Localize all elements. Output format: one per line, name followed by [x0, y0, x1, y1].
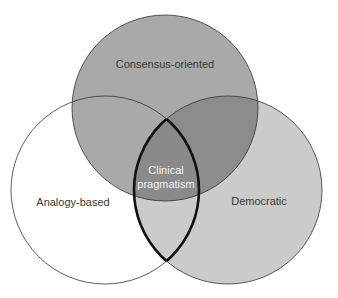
- venn-diagram: Consensus-oriented Analogy-based Democra…: [0, 0, 338, 298]
- analogy-label: Analogy-based: [36, 196, 109, 208]
- clinical-pragmatism-label-line2: pragmatism: [137, 178, 194, 190]
- democratic-label: Democratic: [231, 195, 287, 207]
- clinical-pragmatism-label-line1: Clinical: [148, 164, 183, 176]
- consensus-label: Consensus-oriented: [116, 58, 214, 70]
